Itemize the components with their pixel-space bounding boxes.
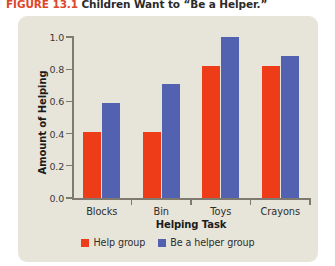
y-axis-tick-label: 1.0 bbox=[18, 32, 64, 43]
y-axis-tick bbox=[66, 165, 73, 166]
chart-legend: Help groupBe a helper group bbox=[18, 237, 318, 248]
y-axis-tick-label: 0.0 bbox=[18, 193, 64, 204]
y-axis-tick bbox=[66, 69, 73, 70]
legend-item: Be a helper group bbox=[158, 237, 254, 248]
bar bbox=[143, 132, 161, 198]
x-axis-category-label: Toys bbox=[191, 206, 251, 217]
y-axis-tick bbox=[66, 133, 73, 134]
figure-number: FIGURE 13.1 bbox=[6, 0, 78, 10]
y-axis-title: Amount of Helping bbox=[37, 53, 48, 193]
y-axis-tick bbox=[66, 101, 73, 102]
x-axis-category-label: Blocks bbox=[72, 206, 132, 217]
bar bbox=[83, 132, 101, 198]
figure-title: Children Want to “Be a Helper.” bbox=[82, 0, 268, 10]
y-axis-tick bbox=[66, 197, 73, 198]
bar bbox=[262, 66, 280, 198]
bar bbox=[221, 37, 239, 198]
x-axis-category-label: Crayons bbox=[251, 206, 311, 217]
x-axis-tick bbox=[309, 198, 310, 205]
bar bbox=[202, 66, 220, 198]
x-axis-tick bbox=[131, 198, 132, 205]
legend-swatch-icon bbox=[81, 239, 89, 247]
x-axis-title: Helping Task bbox=[72, 219, 310, 230]
bar bbox=[102, 103, 120, 198]
x-axis-tick bbox=[190, 198, 191, 205]
y-axis-line bbox=[72, 36, 74, 199]
figure-caption: FIGURE 13.1 Children Want to “Be a Helpe… bbox=[6, 0, 326, 11]
chart-panel: 0.00.20.40.60.81.0 BlocksBinToysCrayons … bbox=[18, 16, 318, 262]
x-axis-category-label: Bin bbox=[132, 206, 192, 217]
x-axis-tick bbox=[250, 198, 251, 205]
legend-label: Be a helper group bbox=[170, 237, 254, 248]
bar bbox=[162, 84, 180, 198]
legend-swatch-icon bbox=[158, 239, 166, 247]
y-axis-tick bbox=[66, 36, 73, 37]
legend-item: Help group bbox=[81, 237, 145, 248]
legend-label: Help group bbox=[93, 237, 145, 248]
plot-area: 0.00.20.40.60.81.0 BlocksBinToysCrayons … bbox=[18, 16, 318, 262]
bar bbox=[281, 56, 299, 198]
